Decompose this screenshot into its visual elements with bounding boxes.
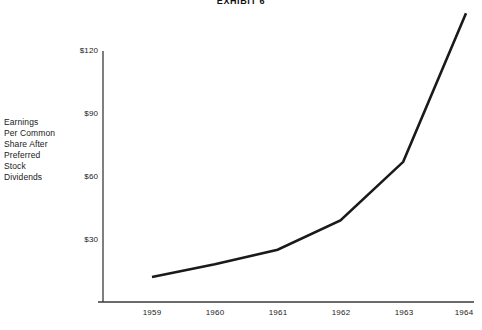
data-series-line (152, 13, 466, 277)
plot-area (0, 0, 482, 330)
earnings-per-share-line-chart: EXHIBIT 6 Earnings Per Common Share Afte… (0, 0, 482, 330)
